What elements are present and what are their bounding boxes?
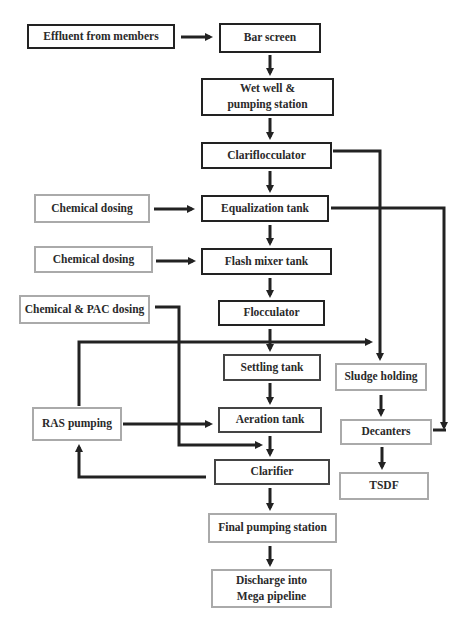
node-label: Aeration tank: [236, 412, 305, 428]
node-aeration-tank: Aeration tank: [218, 407, 322, 433]
node-label: Decanters: [361, 424, 410, 440]
node-label: Clarifier: [251, 464, 294, 480]
node-clarifier: Clarifier: [214, 459, 330, 485]
node-label: Flocculator: [243, 305, 299, 321]
node-ras-pumping: RAS pumping: [32, 407, 122, 441]
node-label: RAS pumping: [42, 416, 112, 432]
node-label: Wet well & pumping station: [221, 81, 314, 112]
node-sludge-holding: Sludge holding: [335, 363, 427, 391]
node-flash-mixer-tank: Flash mixer tank: [201, 248, 332, 275]
node-tsdf: TSDF: [339, 472, 429, 500]
node-chemical-dosing-2: Chemical dosing: [34, 246, 153, 273]
node-bar-screen: Bar screen: [219, 23, 321, 53]
node-label: Final pumping station: [218, 520, 327, 536]
node-wet-well: Wet well & pumping station: [201, 78, 334, 116]
node-label: TSDF: [369, 478, 398, 494]
node-label: Clariflocculator: [227, 148, 306, 164]
node-label: Chemical & PAC dosing: [25, 302, 145, 318]
node-final-pumping-station: Final pumping station: [208, 513, 337, 543]
node-clariflocculator: Clariflocculator: [201, 142, 332, 169]
node-decanters: Decanters: [340, 419, 432, 445]
node-label: Effluent from members: [43, 29, 158, 45]
node-label: Sludge holding: [344, 369, 417, 385]
node-effluent: Effluent from members: [27, 24, 175, 49]
node-label: Bar screen: [244, 30, 296, 46]
node-flocculator: Flocculator: [218, 300, 325, 326]
node-chemical-pac-dosing: Chemical & PAC dosing: [19, 295, 150, 324]
node-settling-tank: Settling tank: [223, 354, 321, 381]
node-chemical-dosing-1: Chemical dosing: [34, 194, 150, 223]
node-equalization-tank: Equalization tank: [201, 195, 329, 222]
node-label: Chemical dosing: [51, 201, 132, 217]
node-label: Discharge into Mega pipeline: [221, 573, 322, 604]
node-label: Chemical dosing: [53, 252, 134, 268]
node-discharge: Discharge into Mega pipeline: [211, 569, 332, 608]
node-label: Settling tank: [241, 360, 304, 376]
node-label: Flash mixer tank: [225, 254, 309, 270]
node-label: Equalization tank: [221, 201, 309, 217]
